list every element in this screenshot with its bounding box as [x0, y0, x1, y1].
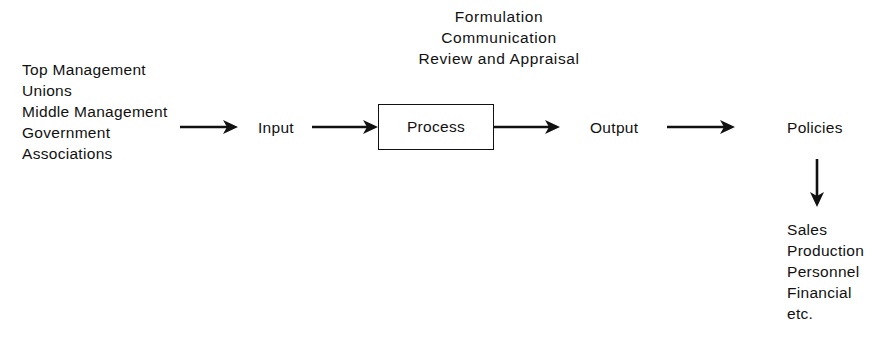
diagram-canvas: Formulation Communication Review and App… [0, 0, 884, 340]
header-line-review-and-appraisal: Review and Appraisal [349, 48, 649, 69]
policies-label: Policies [787, 117, 843, 138]
arrow-policies-to-outcomes-icon [807, 159, 827, 209]
process-activities-header: Formulation Communication Review and App… [349, 6, 649, 69]
input-label: Input [258, 117, 294, 138]
arrow-input-to-process-icon [312, 117, 380, 137]
output-label: Output [590, 117, 638, 138]
arrow-output-to-policies-icon [667, 117, 737, 137]
source-item-government: Government [22, 122, 168, 143]
outcome-areas-list: Sales Production Personnel Financial etc… [787, 219, 864, 324]
source-item-unions: Unions [22, 80, 168, 101]
source-item-top-management: Top Management [22, 59, 168, 80]
process-label: Process [379, 118, 493, 136]
outcome-item-financial: Financial [787, 282, 864, 303]
source-item-associations: Associations [22, 143, 168, 164]
source-item-middle-management: Middle Management [22, 101, 168, 122]
policy-sources-list: Top Management Unions Middle Management … [22, 59, 168, 164]
outcome-item-sales: Sales [787, 219, 864, 240]
header-line-formulation: Formulation [349, 6, 649, 27]
header-line-communication: Communication [349, 27, 649, 48]
outcome-item-personnel: Personnel [787, 261, 864, 282]
arrow-sources-to-input-icon [180, 117, 240, 137]
process-box: Process [378, 104, 494, 150]
outcome-item-production: Production [787, 240, 864, 261]
outcome-item-etc: etc. [787, 303, 864, 324]
arrow-process-to-output-icon [494, 117, 562, 137]
